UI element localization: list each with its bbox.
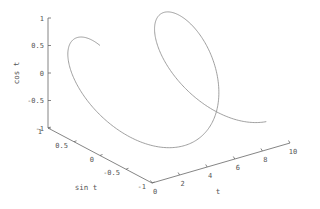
tick-mark bbox=[126, 168, 129, 169]
tick-mark bbox=[289, 141, 291, 144]
t-axis-label: t bbox=[216, 187, 221, 196]
tick-mark bbox=[206, 165, 208, 168]
cos-tick-label: -0.5 bbox=[27, 97, 44, 105]
t-tick-label: 2 bbox=[180, 180, 184, 188]
sin-tick-label: -1 bbox=[138, 183, 146, 191]
cos-tick-label: 1 bbox=[40, 15, 44, 23]
t-tick-label: 0 bbox=[153, 188, 157, 196]
tick-mark bbox=[261, 149, 263, 152]
t-tick-label: 4 bbox=[208, 172, 212, 180]
sin-tick-label: -0.5 bbox=[103, 169, 120, 177]
tick-mark bbox=[152, 182, 155, 183]
tick-mark bbox=[178, 173, 180, 176]
sin-tick-label: 0.5 bbox=[55, 142, 68, 150]
sin-tick-label: 1 bbox=[38, 128, 42, 136]
helix-curve bbox=[68, 12, 266, 148]
cos-tick-label: 0 bbox=[40, 70, 44, 78]
cos-axis-label: cos t bbox=[12, 62, 21, 85]
cos-tick-label: 0.5 bbox=[31, 42, 44, 50]
t-tick-label: 8 bbox=[263, 156, 267, 164]
t-axis bbox=[152, 143, 290, 183]
helix-3d-plot: 10.50-0.5-110.50-0.5-10246810 cos t sin … bbox=[0, 0, 320, 209]
sin-tick-label: 0 bbox=[90, 156, 94, 164]
t-tick-label: 10 bbox=[289, 148, 297, 156]
tick-mark bbox=[74, 141, 77, 142]
sin-axis-label: sin t bbox=[75, 183, 98, 192]
tick-mark bbox=[233, 157, 235, 160]
axes bbox=[48, 18, 290, 183]
t-tick-label: 6 bbox=[236, 164, 240, 172]
tick-mark bbox=[100, 155, 103, 156]
